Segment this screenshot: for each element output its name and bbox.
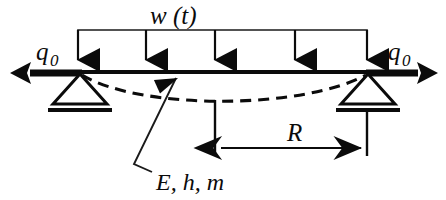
axial-load-right-symbol: q	[388, 38, 401, 65]
beam-diagram-svg: w (t) q 0 q 0 R E, h, m	[0, 0, 446, 200]
material-leader-line	[134, 78, 176, 172]
beam-diagram: w (t) q 0 q 0 R E, h, m	[0, 0, 446, 200]
axial-load-label-right: q 0	[388, 38, 411, 70]
deflection-curve	[82, 75, 366, 101]
right-pin-support	[336, 74, 400, 110]
distributed-load-bracket	[78, 30, 367, 43]
axial-load-left-symbol: q	[36, 38, 49, 65]
axial-load-arrow-left	[10, 62, 82, 84]
material-properties-label: E, h, m	[155, 169, 224, 195]
left-pin-support	[48, 74, 112, 110]
axial-load-left-subscript: 0	[50, 51, 59, 70]
dimension-R-label: R	[286, 119, 302, 146]
distributed-load-arrows	[78, 30, 367, 60]
distributed-load-label: w (t)	[150, 2, 197, 30]
axial-load-right-subscript: 0	[402, 51, 411, 70]
axial-load-label-left: q 0	[36, 38, 59, 70]
